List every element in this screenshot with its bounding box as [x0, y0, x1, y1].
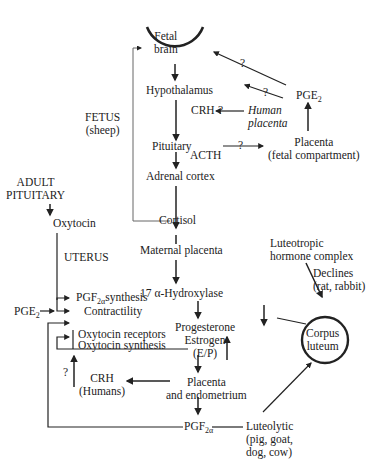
- node-placenta-fetal: Placenta (fetal compartment): [268, 136, 360, 162]
- label-line: Luteolytic: [246, 420, 293, 433]
- label-suffix: synthesis: [105, 291, 147, 303]
- label-sub: 2: [36, 311, 40, 320]
- node-corpus-luteum: Corpus luteum: [306, 327, 339, 353]
- label-base: PGF: [184, 420, 205, 432]
- label-line: placenta: [248, 117, 288, 130]
- label-line: (rat, rabbit): [313, 280, 365, 293]
- label-line: Corpus: [306, 327, 339, 340]
- node-adrenal-cortex: Adrenal cortex: [146, 170, 215, 183]
- label-line: Placenta: [268, 136, 360, 149]
- label-line: dog, cow): [246, 446, 293, 459]
- node-human-placenta: Human placenta: [248, 104, 288, 130]
- label-line: Luteotropic: [270, 237, 353, 250]
- node-placenta-endometrium: Placenta and endometrium: [166, 376, 247, 402]
- node-crh-fetal: CRH: [191, 104, 215, 117]
- declines-label: Declines (rat, rabbit): [313, 267, 365, 293]
- node-crh-humans: CRH (Humans): [79, 372, 125, 398]
- label-line: FETUS: [85, 111, 120, 124]
- qmark: ?: [63, 366, 68, 379]
- node-fetal-brain: Fetal brain: [154, 30, 178, 56]
- node-hydroxylase: 17 α-Hydroxylase: [140, 287, 223, 300]
- luteotropic-label: Luteotropic hormone complex: [270, 237, 353, 263]
- label-line: (Humans): [79, 385, 125, 398]
- label-line: (E/P): [175, 347, 235, 360]
- qmark: ?: [218, 104, 223, 117]
- node-maternal-placenta: Maternal placenta: [140, 244, 223, 257]
- node-pituitary: Pituitary: [152, 140, 192, 153]
- node-pgf-bottom: PGF2α: [184, 420, 213, 433]
- label-line: (pig, goat,: [246, 433, 293, 446]
- label-sub: 2α: [205, 426, 213, 435]
- qmark: ?: [238, 139, 243, 152]
- label-sub: 2: [318, 95, 322, 104]
- label-line: Fetal: [154, 30, 178, 43]
- fetus-label: FETUS (sheep): [85, 111, 120, 137]
- label-line: Estrogen: [175, 334, 235, 347]
- label-line: CRH: [79, 372, 125, 385]
- node-acth: ACTH: [190, 149, 221, 162]
- label-line: and endometrium: [166, 389, 247, 402]
- label-base: PGE: [14, 305, 36, 317]
- luteolytic-label: Luteolytic (pig, goat, dog, cow): [246, 420, 293, 459]
- label-line: brain: [154, 43, 178, 56]
- label-line: (fetal compartment): [268, 149, 360, 162]
- label-line: Progesterone: [175, 321, 235, 334]
- node-progesterone-estrogen: Progesterone Estrogen (E/P): [175, 321, 235, 360]
- node-pge2-top: PGE2: [296, 89, 322, 102]
- label-line: ADULT: [6, 176, 65, 189]
- label-line: Placenta: [166, 376, 247, 389]
- node-pgf-synthesis: PGF2αsynthesis: [76, 291, 147, 304]
- adult-pituitary-label: ADULT PITUITARY: [6, 176, 65, 202]
- node-pge2-left: PGE2: [14, 305, 40, 318]
- node-oxytocin-synthesis: Oxytocin synthesis: [78, 339, 166, 352]
- label-base: PGE: [296, 89, 318, 101]
- node-contractility: Contractility: [84, 305, 142, 318]
- label-line: PITUITARY: [6, 189, 65, 202]
- label-line: hormone complex: [270, 250, 353, 263]
- node-cortisol: Cortisol: [159, 214, 196, 227]
- uterus-label: UTERUS: [64, 251, 109, 264]
- label-line: luteum: [306, 340, 339, 353]
- label-line: (sheep): [85, 124, 120, 137]
- qmark: ?: [263, 86, 268, 99]
- node-hypothalamus: Hypothalamus: [146, 84, 213, 97]
- qmark: ?: [240, 57, 245, 70]
- label-line: Human: [248, 104, 288, 117]
- node-oxytocin: Oxytocin: [53, 217, 96, 230]
- label-base: PGF: [76, 291, 97, 303]
- label-line: Declines: [313, 267, 365, 280]
